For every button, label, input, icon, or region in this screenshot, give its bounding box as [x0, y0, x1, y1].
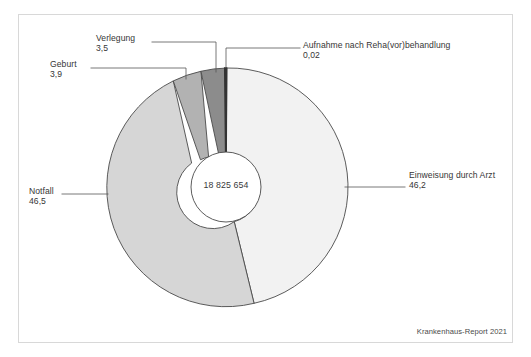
source-credit: Krankenhaus-Report 2021 [417, 327, 507, 336]
callout-verlegung: Verlegung 3,5 [96, 33, 135, 53]
callout-einweisung-durch-arzt: Einweisung durch Arzt 46,2 [409, 170, 495, 190]
figure-root: Verlegung 3,5 Geburt 3,9 Aufnahme nach R… [0, 0, 531, 357]
slice-aufnahme-nach-reha-vorbehandlung[interactable] [225, 68, 227, 153]
callout-verlegung-value: 3,5 [96, 43, 135, 53]
callout-einweisung-durch-arzt-label: Einweisung durch Arzt [409, 170, 495, 180]
callout-geburt-value: 3,9 [50, 69, 77, 79]
donut-center-total: 18 825 654 [186, 180, 266, 190]
callout-geburt-label: Geburt [50, 59, 77, 69]
callout-aufnahme-nach-reha-label: Aufnahme nach Reha(vor)behandlung [303, 40, 450, 50]
leader-line-geburt [91, 68, 186, 79]
callout-geburt: Geburt 3,9 [50, 59, 77, 79]
callout-aufnahme-nach-reha: Aufnahme nach Reha(vor)behandlung 0,02 [303, 40, 450, 60]
leader-line-reha [226, 48, 300, 67]
callout-notfall-value: 46,5 [29, 196, 54, 206]
callout-aufnahme-nach-reha-value: 0,02 [303, 50, 450, 60]
callout-notfall: Notfall 46,5 [29, 186, 54, 206]
callout-einweisung-durch-arzt-value: 46,2 [409, 180, 495, 190]
callout-verlegung-label: Verlegung [96, 33, 135, 43]
callout-notfall-label: Notfall [29, 186, 54, 196]
leader-line-verlegung [152, 42, 216, 72]
